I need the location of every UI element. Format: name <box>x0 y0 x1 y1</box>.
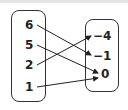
arrow-5-to-0 <box>37 45 98 73</box>
mapping-arrows <box>0 0 128 110</box>
arrow-1-to-0 <box>37 78 98 87</box>
